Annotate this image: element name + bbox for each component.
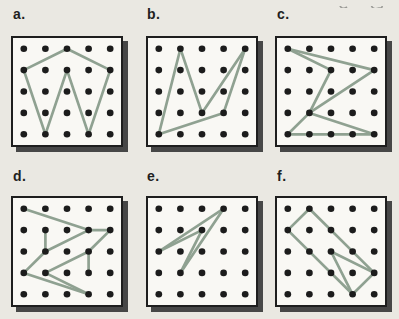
peg-dot xyxy=(85,45,92,52)
geoboard-e-canvas xyxy=(148,198,256,305)
peg-dot xyxy=(349,205,356,212)
peg-dot xyxy=(107,131,114,138)
peg-dot xyxy=(85,227,92,234)
peg-dot xyxy=(328,131,335,138)
peg-dot xyxy=(85,67,92,74)
peg-dot xyxy=(177,67,184,74)
band-segment xyxy=(309,113,374,134)
peg-dot xyxy=(64,67,71,74)
peg-dot xyxy=(20,131,27,138)
peg-dot xyxy=(107,67,114,74)
peg-dot xyxy=(242,88,249,95)
geoboard-f-canvas xyxy=(277,198,385,305)
peg-dot xyxy=(177,205,184,212)
peg-dot xyxy=(306,67,313,74)
peg-dot xyxy=(371,291,378,298)
peg-dot xyxy=(20,88,27,95)
peg-dot xyxy=(284,270,291,277)
peg-dot xyxy=(20,67,27,74)
peg-dot xyxy=(107,248,114,255)
peg-dot xyxy=(349,227,356,234)
band-segment xyxy=(89,230,111,251)
peg-dot xyxy=(20,291,27,298)
peg-dot xyxy=(220,45,227,52)
peg-dot xyxy=(107,110,114,117)
geoboard-c xyxy=(275,36,387,147)
geoboard-d xyxy=(11,196,123,307)
peg-dot xyxy=(42,205,49,212)
peg-dot xyxy=(242,227,249,234)
peg-dot xyxy=(107,291,114,298)
peg-dot xyxy=(199,67,206,74)
peg-dot xyxy=(42,45,49,52)
peg-dot xyxy=(155,45,162,52)
peg-dot xyxy=(107,270,114,277)
peg-dot xyxy=(64,110,71,117)
peg-dot xyxy=(20,248,27,255)
peg-dot xyxy=(220,205,227,212)
band-segment xyxy=(288,209,310,230)
geoboard-c-canvas xyxy=(277,38,385,145)
peg-dot xyxy=(42,67,49,74)
peg-dot xyxy=(85,205,92,212)
peg-dot xyxy=(284,88,291,95)
peg-dot xyxy=(284,131,291,138)
peg-dot xyxy=(284,291,291,298)
geoboard-a-canvas xyxy=(13,38,121,145)
band-segment xyxy=(45,70,67,134)
peg-dot xyxy=(107,227,114,234)
peg-dot xyxy=(85,88,92,95)
peg-dot xyxy=(64,45,71,52)
peg-dot xyxy=(349,67,356,74)
peg-dot xyxy=(284,205,291,212)
peg-dot xyxy=(284,248,291,255)
peg-dot xyxy=(371,227,378,234)
peg-dot xyxy=(64,227,71,234)
peg-dot xyxy=(371,110,378,117)
peg-dot xyxy=(220,110,227,117)
peg-dot xyxy=(328,205,335,212)
band-segment xyxy=(202,49,245,113)
peg-dot xyxy=(177,227,184,234)
peg-dot xyxy=(155,110,162,117)
peg-dot xyxy=(284,67,291,74)
peg-dot xyxy=(284,110,291,117)
peg-dot xyxy=(306,227,313,234)
peg-dot xyxy=(220,131,227,138)
peg-dot xyxy=(20,110,27,117)
geoboard-b-canvas xyxy=(148,38,256,145)
peg-dot xyxy=(20,45,27,52)
peg-dot xyxy=(284,227,291,234)
panel-label-e: e. xyxy=(147,168,160,184)
peg-dot xyxy=(328,45,335,52)
band-segment xyxy=(159,209,224,252)
peg-dot xyxy=(328,248,335,255)
peg-dot xyxy=(328,227,335,234)
peg-dot xyxy=(42,110,49,117)
worksheet-page: a. b. c. d. e. f. xyxy=(0,0,399,319)
peg-dot xyxy=(242,131,249,138)
peg-dot xyxy=(177,88,184,95)
peg-dot xyxy=(85,291,92,298)
peg-dot xyxy=(20,227,27,234)
peg-dot xyxy=(220,67,227,74)
panel-label-c: c. xyxy=(277,6,290,22)
peg-dot xyxy=(107,88,114,95)
peg-dot xyxy=(42,227,49,234)
peg-dot xyxy=(177,131,184,138)
band-segment xyxy=(24,209,89,230)
peg-dot xyxy=(328,270,335,277)
peg-dot xyxy=(242,291,249,298)
band-segment xyxy=(180,209,223,273)
panel-label-b: b. xyxy=(147,6,160,22)
peg-dot xyxy=(242,110,249,117)
peg-dot xyxy=(220,227,227,234)
peg-dot xyxy=(199,110,206,117)
peg-dot xyxy=(328,110,335,117)
peg-dot xyxy=(349,110,356,117)
peg-dot xyxy=(306,88,313,95)
peg-dot xyxy=(155,270,162,277)
band-segment xyxy=(67,70,89,134)
band-segment xyxy=(353,273,375,294)
peg-dot xyxy=(155,248,162,255)
